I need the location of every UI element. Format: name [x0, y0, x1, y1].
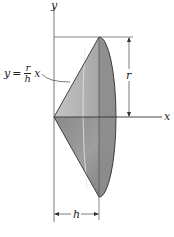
equation-variable: x: [34, 67, 40, 80]
h-arrow-right: [94, 212, 99, 216]
height-label: h: [73, 208, 80, 221]
x-axis-label: x: [164, 110, 171, 123]
radius-label: r: [126, 69, 132, 82]
equation-denominator: h: [25, 74, 31, 84]
equation-fraction: r h: [24, 63, 31, 84]
equation-leader-line: [42, 74, 70, 82]
h-arrow-left: [54, 212, 59, 216]
equation-equals: =: [12, 67, 21, 80]
cone-diagram: y x r h: [0, 0, 174, 237]
r-arrow-bottom: [127, 112, 131, 117]
r-arrow-top: [127, 37, 131, 42]
y-axis-label: y: [50, 0, 58, 12]
equation-label: y = r h x: [4, 63, 40, 84]
equation-lhs: y: [4, 67, 10, 80]
